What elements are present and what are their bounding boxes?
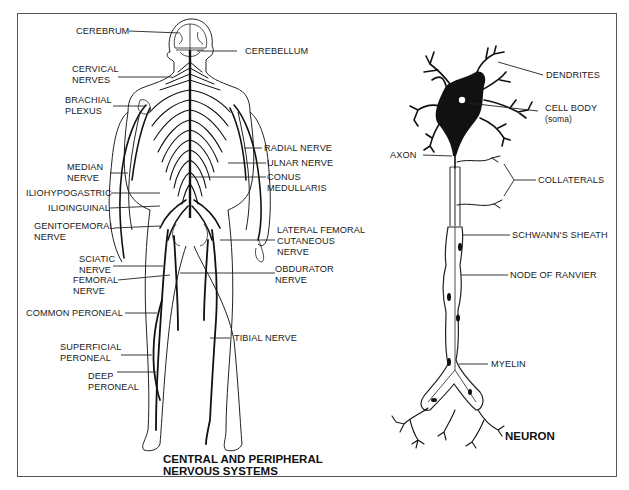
label-dendrites: DENDRITES — [546, 70, 600, 81]
label-brachial-plexus: BRACHIAL PLEXUS — [65, 95, 112, 117]
cerebrum-drawing — [174, 24, 206, 50]
label-radial-nerve: RADIAL NERVE — [264, 143, 332, 154]
myelin-sheath-drawing — [421, 227, 483, 410]
label-axon: AXON — [390, 150, 416, 161]
label-tibial-nerve: TIBIAL NERVE — [234, 333, 297, 344]
title-neuron: NEURON — [505, 430, 555, 442]
label-iliohypogastric: ILIOHYPOGASTRIC — [26, 188, 112, 199]
collaterals-drawing — [457, 156, 502, 208]
head-outline — [169, 19, 250, 112]
neuron-figure — [392, 46, 532, 448]
label-sciatic-nerve: SCIATIC NERVE — [79, 254, 115, 276]
label-obdurator-nerve: OBDURATOR NERVE — [275, 264, 334, 286]
right-arm-nerves — [230, 105, 261, 240]
label-schwanns-sheath: SCHWANN'S SHEATH — [512, 230, 608, 241]
label-conus-medullaris: CONUS MEDULLARIS — [267, 172, 327, 194]
label-myelin: MYELIN — [491, 359, 526, 370]
left-arm-nerves — [120, 105, 150, 258]
nucleus — [459, 97, 465, 103]
label-cell-body: CELL BODY (soma) — [545, 103, 597, 125]
label-node-of-ranvier: NODE OF RANVIER — [510, 270, 597, 281]
right-leg-nerves — [204, 230, 217, 444]
left-leg-nerves — [153, 230, 178, 430]
axon-terminals — [392, 408, 504, 448]
label-median-nerve: MEDIAN NERVE — [67, 162, 103, 184]
cell-body-drawing — [436, 72, 486, 156]
label-ilioinguinal: ILIOINGUINAL — [48, 203, 110, 214]
body-leader-lines — [110, 31, 275, 372]
label-superficial-peroneal: SUPERFICIAL PERONEAL — [60, 342, 121, 364]
right-arm — [238, 112, 270, 246]
schwann-nuclei — [431, 243, 472, 402]
label-cervical-nerves: CERVICAL NERVES — [72, 64, 119, 86]
title-central-peripheral-nervous-systems: CENTRAL AND PERIPHERAL NERVOUS SYSTEMS — [163, 453, 323, 477]
label-cerebellum: CEREBELLUM — [245, 46, 308, 57]
label-ulnar-nerve: ULNAR NERVE — [267, 158, 333, 169]
label-deep-peroneal: DEEP PERONEAL — [88, 371, 139, 393]
label-genitofemoral-nerve: GENITOFEMORAL NERVE — [34, 221, 115, 243]
right-leg — [194, 210, 242, 451]
label-cerebrum: CEREBRUM — [76, 26, 129, 37]
label-collaterals: COLLATERALS — [538, 175, 604, 186]
label-lateral-femoral-cutaneous-nerve: LATERAL FEMORAL CUTANEOUS NERVE — [277, 225, 365, 258]
label-femoral-nerve: FEMORAL NERVE — [73, 275, 118, 297]
label-common-peroneal: COMMON PERONEAL — [26, 308, 123, 319]
